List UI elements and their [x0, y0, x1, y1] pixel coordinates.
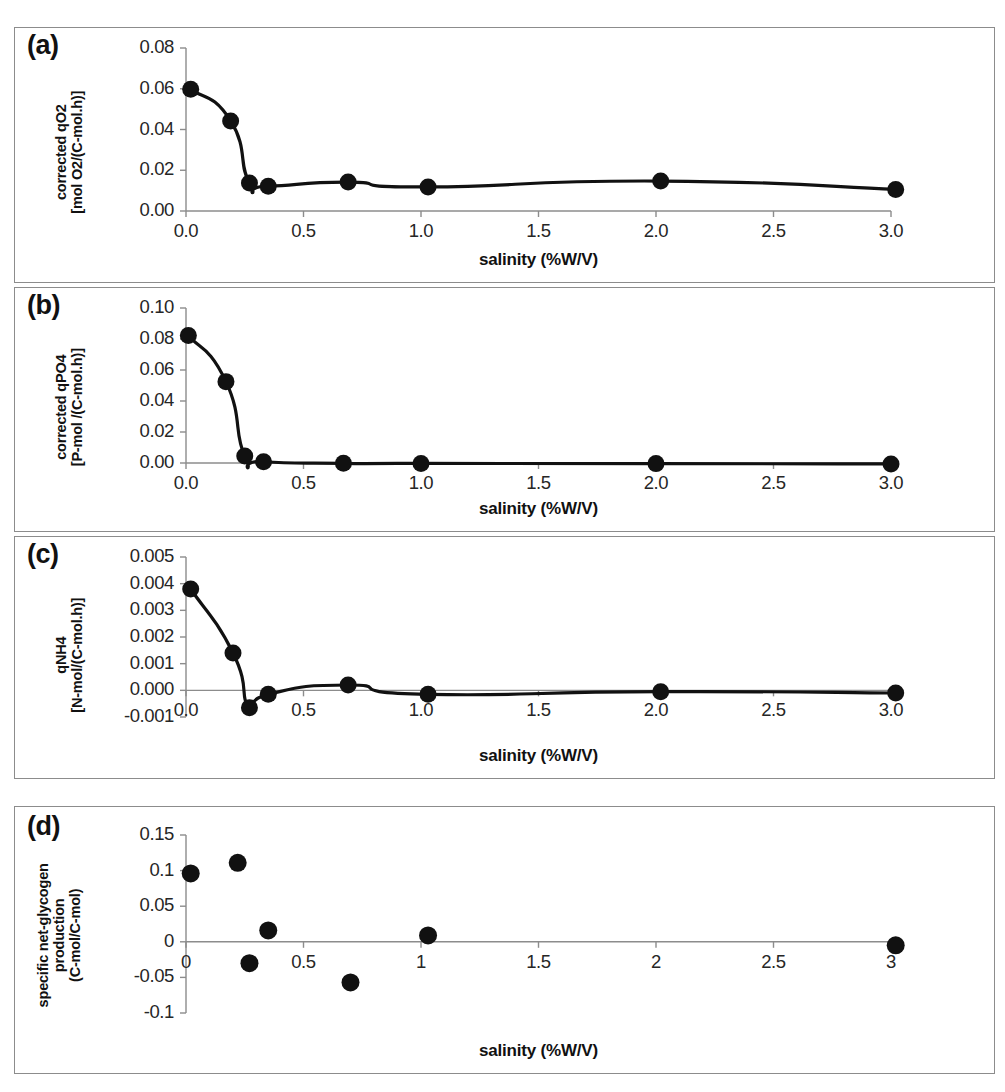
x-tick-label: 1.5	[499, 220, 579, 242]
x-tick-label: 0.5	[264, 699, 344, 721]
y-tick-label: 0.06	[64, 358, 174, 380]
data-point	[342, 973, 360, 991]
x-tick-label: 1.0	[381, 472, 461, 494]
y-tick-label: 0.08	[64, 327, 174, 349]
fit-curve	[188, 336, 891, 468]
data-point	[240, 954, 258, 972]
y-tick-label: 0.001	[64, 652, 174, 674]
data-point	[335, 455, 352, 472]
data-point	[413, 455, 430, 472]
chart-panel-d: (d)specific net-glycogenproduction(C-mol…	[14, 806, 995, 1074]
y-tick-label: 0.005	[64, 545, 174, 567]
x-tick-label: 2.5	[734, 951, 814, 973]
x-tick-label: 0.0	[146, 699, 226, 721]
data-point	[648, 455, 665, 472]
y-tick-label: 0.04	[64, 118, 174, 140]
x-tick-label: 1	[381, 951, 461, 973]
x-tick-label: 0.0	[146, 220, 226, 242]
y-tick-label: 0	[64, 930, 174, 952]
fit-curve	[191, 589, 896, 712]
data-point	[217, 373, 234, 390]
x-tick-label: 3.0	[851, 699, 931, 721]
x-tick-label: 0.5	[264, 220, 344, 242]
chart-panel-b: (b)corrected qPO4[P-mol /(C-mol.h)]0.000…	[14, 287, 995, 532]
x-tick-label: 2.5	[734, 220, 814, 242]
x-tick-label: 1.5	[499, 472, 579, 494]
x-tick-label: 1.0	[381, 220, 461, 242]
data-point	[340, 677, 357, 694]
y-tick-label: 0.05	[64, 894, 174, 916]
y-tick-label: -0.1	[64, 1001, 174, 1023]
data-point	[241, 699, 258, 716]
y-tick-label: 0.000	[64, 678, 174, 700]
chart-panel-a: (a)corrected qO2[mol O2/(C-mol.h)]0.000.…	[14, 27, 995, 283]
x-tick-label: 2.5	[734, 472, 814, 494]
x-tick-label: 1.0	[381, 699, 461, 721]
x-tick-label: 1.5	[499, 699, 579, 721]
x-tick-label: 0.5	[264, 951, 344, 973]
data-point	[652, 173, 669, 190]
data-point	[225, 645, 242, 662]
y-tick-label: 0.004	[64, 572, 174, 594]
y-tick-label: 0.02	[64, 158, 174, 180]
y-tick-label: 0.15	[64, 823, 174, 845]
y-tick-label: 0.003	[64, 598, 174, 620]
data-point	[241, 175, 258, 192]
chart-panel-c: (c)qNH4[N-mol/(C-mol.h)]-0.0010.0000.001…	[14, 536, 995, 779]
x-tick-label: 3.0	[851, 472, 931, 494]
x-tick-label: 0.5	[264, 472, 344, 494]
x-tick-label: 0.0	[146, 472, 226, 494]
data-point	[229, 854, 247, 872]
x-tick-label: 2.0	[616, 220, 696, 242]
x-axis-label: salinity (%W/V)	[459, 499, 619, 519]
data-point	[652, 683, 669, 700]
x-tick-label: 1.5	[499, 951, 579, 973]
data-point	[260, 178, 277, 195]
x-axis-label: salinity (%W/V)	[459, 250, 619, 270]
y-tick-label: 0.00	[64, 451, 174, 473]
data-point	[259, 921, 277, 939]
data-point	[182, 581, 199, 598]
data-point	[180, 327, 197, 344]
data-point	[887, 181, 904, 198]
y-tick-label: 0.04	[64, 389, 174, 411]
y-tick-label: 0.02	[64, 420, 174, 442]
x-tick-label: 2.0	[616, 472, 696, 494]
y-tick-label: 0.06	[64, 77, 174, 99]
y-tick-label: 0.08	[64, 36, 174, 58]
data-point	[236, 448, 253, 465]
x-tick-label: 3	[851, 951, 931, 973]
y-tick-label: 0.1	[64, 859, 174, 881]
y-tick-label: 0.00	[64, 199, 174, 221]
plot-area	[15, 28, 996, 284]
data-point	[420, 178, 437, 195]
fit-curve	[191, 89, 896, 193]
x-axis-label: salinity (%W/V)	[459, 746, 619, 766]
x-tick-label: 2.5	[734, 699, 814, 721]
data-point	[883, 455, 900, 472]
x-tick-label: 2	[616, 951, 696, 973]
y-tick-label: 0.002	[64, 625, 174, 647]
data-point	[419, 926, 437, 944]
x-axis-label: salinity (%W/V)	[459, 1041, 619, 1061]
data-point	[340, 174, 357, 191]
x-tick-label: 3.0	[851, 220, 931, 242]
figure-container: (a)corrected qO2[mol O2/(C-mol.h)]0.000.…	[0, 0, 1005, 1092]
data-point	[182, 81, 199, 98]
x-tick-label: 2.0	[616, 699, 696, 721]
x-tick-label: 0	[146, 951, 226, 973]
data-point	[182, 864, 200, 882]
data-point	[222, 112, 239, 129]
y-tick-label: 0.10	[64, 296, 174, 318]
data-point	[255, 453, 272, 470]
